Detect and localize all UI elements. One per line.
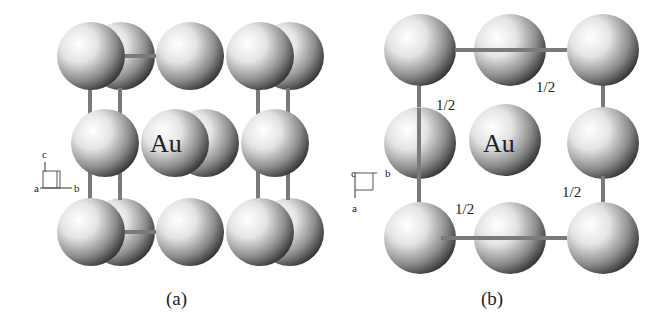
- crystal-structure-figure: Au c b a (a): [0, 0, 670, 328]
- fraction-label: 1/2: [536, 79, 555, 95]
- axis-label-b: b: [385, 167, 391, 179]
- axis-label-c: c: [351, 167, 356, 179]
- element-label-au: Au: [150, 129, 182, 158]
- panel-b: Au 1/2 1/2 1/2 1/2 c b a (b): [351, 14, 639, 310]
- front-layer-spheres: [57, 22, 309, 266]
- axis-indicator: c b a: [351, 167, 391, 214]
- axis-label-c: c: [42, 148, 47, 160]
- axis-label-a: a: [34, 182, 39, 194]
- panel-a: Au c b a (a): [34, 22, 324, 310]
- axis-indicator: c b a: [34, 148, 80, 194]
- panel-caption-a: (a): [166, 288, 187, 310]
- fraction-label: 1/2: [455, 201, 474, 217]
- fraction-label: 1/2: [436, 97, 455, 113]
- axis-label-a: a: [352, 202, 357, 214]
- element-label-au: Au: [483, 129, 515, 158]
- panel-caption-b: (b): [481, 288, 503, 310]
- fraction-label: 1/2: [562, 184, 581, 200]
- axis-label-b: b: [74, 182, 80, 194]
